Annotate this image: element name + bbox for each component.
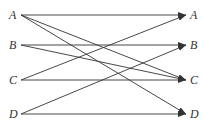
right-node-c: C — [190, 74, 198, 86]
edge-b-to-c — [21, 45, 186, 80]
edge-a-to-d — [21, 15, 186, 114]
right-node-a: A — [190, 9, 197, 21]
left-node-c: C — [9, 74, 17, 86]
right-node-d: D — [190, 108, 199, 120]
bipartite-graph — [0, 0, 204, 131]
edge-d-to-b — [21, 45, 186, 114]
left-node-d: D — [9, 108, 18, 120]
left-node-a: A — [9, 9, 16, 21]
right-node-b: B — [190, 39, 197, 51]
left-node-b: B — [9, 39, 16, 51]
